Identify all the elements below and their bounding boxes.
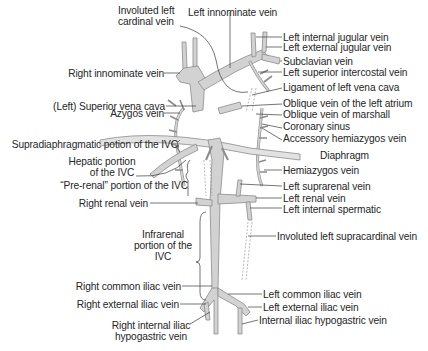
label-azygos: Azygos vein xyxy=(110,108,164,119)
label-line: Right internal iliac xyxy=(108,320,194,331)
label-right-internal-iliac: Right internal iliac hypogastric vein xyxy=(108,320,194,342)
left-spermatic-vessel xyxy=(246,202,252,220)
label-line: portion of the xyxy=(130,240,196,251)
label-left-suprarenal: Left suprarenal vein xyxy=(283,181,370,192)
label-subclavian: Subclavian vein xyxy=(283,56,353,67)
label-hemiazygos: Hemiazygos vein xyxy=(283,165,359,176)
label-left-external-jugular: Left external jugular vein xyxy=(283,42,391,53)
right-renal-vessel xyxy=(196,198,212,206)
involuted-supracardinal xyxy=(242,222,252,280)
leader-internal-iliac xyxy=(242,320,258,324)
leader-oblique-atrium xyxy=(242,104,282,106)
label-diaphragm: Diaphragm xyxy=(320,150,369,161)
venous-anatomy-diagram: Involuted left cardinal vein Left innomi… xyxy=(0,0,428,351)
right-internal-jugular-vessel xyxy=(182,42,187,70)
label-involuted-left-cardinal: Involuted left cardinal vein xyxy=(118,5,174,27)
label-oblique-marshall: Oblique vein of marshall xyxy=(283,109,390,120)
label-prerenal-ivc: “Pre-renal” portion of the IVC xyxy=(60,180,188,191)
left-internal-jugular-vessel xyxy=(251,33,256,57)
label-left-internal-spermatic: Left internal spermatic xyxy=(283,204,381,215)
label-oblique-left-atrium: Oblique vein of the left atrium xyxy=(283,98,412,109)
infrarenal-brace xyxy=(196,212,206,300)
label-line: of the IVC xyxy=(62,167,142,178)
label-right-innominate: Right innominate vein xyxy=(68,68,164,79)
label-right-renal: Right renal vein xyxy=(79,198,148,209)
label-right-common-iliac: Right common iliac vein xyxy=(76,281,181,292)
label-line: IVC xyxy=(130,251,196,262)
right-external-jugular-vessel xyxy=(193,38,197,68)
label-involuted-left-supracardinal: Involuted left supracardinal vein xyxy=(277,231,417,242)
label-left-innominate: Left innominate vein xyxy=(188,7,277,18)
label-accessory-hemiazygos: Accessory hemiazygos vein xyxy=(283,133,406,144)
left-innominate-vessel xyxy=(198,50,268,90)
label-infrarenal-ivc: Infrarenal portion of the IVC xyxy=(130,229,196,262)
right-innominate-vessel xyxy=(176,66,205,112)
label-line: Involuted left xyxy=(118,5,174,16)
label-line: Hepatic portion xyxy=(62,156,142,167)
subclavian-vessel xyxy=(262,54,280,64)
label-ligament-left-vena-cava: Ligament of left vena cava xyxy=(283,82,399,93)
oblique-vein-vessel xyxy=(218,102,242,114)
label-left-common-iliac: Left common iliac vein xyxy=(263,289,362,300)
label-line: Infrarenal xyxy=(130,229,196,240)
label-left-superior-intercostal: Left superior intercostal vein xyxy=(283,67,407,78)
label-line: hypogastric vein xyxy=(108,331,194,342)
label-internal-iliac-hypogastric: Internal iliac hypogastric vein xyxy=(259,315,387,326)
label-hepatic-ivc: Hepatic portion of the IVC xyxy=(62,156,142,178)
label-left-external-iliac: Left external iliac vein xyxy=(263,302,359,313)
label-line: cardinal vein xyxy=(118,16,174,27)
label-right-external-iliac: Right external iliac vein xyxy=(77,299,179,310)
left-suprarenal-vessel xyxy=(236,180,242,196)
ivc-vessel xyxy=(208,138,224,290)
left-external-jugular-vessel xyxy=(262,32,267,53)
label-coronary-sinus: Coronary sinus xyxy=(283,121,350,132)
ligament-left-vena-cava xyxy=(246,88,256,112)
left-internal-iliac-vessel xyxy=(238,308,242,334)
left-common-iliac-vessel xyxy=(218,288,250,316)
label-left-renal: Left renal vein xyxy=(283,193,346,204)
label-supradiaphragmatic-ivc: Supradiaphragmatic potion of the IVC xyxy=(12,139,178,150)
